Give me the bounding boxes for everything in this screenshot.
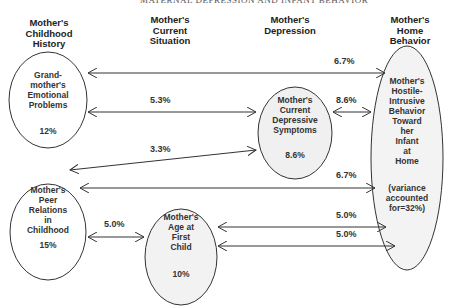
- edge-label-peer-age: 5.0%: [104, 219, 125, 229]
- node-grandmother-value: 12%: [16, 126, 80, 136]
- node-depressive-label: Mother's Current Depressive Symptoms: [262, 95, 328, 135]
- edge-label-peer-depressive: 3.3%: [150, 144, 171, 154]
- node-age-label: Mother's Age at First Child: [151, 212, 211, 252]
- edge-label-age-hostile-lower: 5.0%: [336, 229, 357, 239]
- node-age-value: 10%: [151, 269, 211, 279]
- node-depressive-value: 8.6%: [262, 150, 328, 160]
- node-peer-value: 15%: [16, 240, 80, 250]
- edge-label-depressive-hostile: 8.6%: [336, 95, 357, 105]
- edge-label-age-hostile-upper: 5.0%: [336, 210, 357, 220]
- node-grandmother-label: Grand- mother's Emotional Problems: [16, 70, 80, 110]
- node-peer-label: Mother's Peer Relations in Childhood: [16, 185, 80, 235]
- node-hostile-value: (variance accounted for=32%): [373, 183, 441, 213]
- edge-label-peer-hostile: 6.7%: [336, 170, 357, 180]
- edge-label-grandmother-hostile: 6.7%: [334, 56, 355, 66]
- node-hostile-label: Mother's Hostile- Intrusive Behavior Tow…: [375, 76, 439, 166]
- edge-label-grandmother-depressive: 5.3%: [150, 95, 171, 105]
